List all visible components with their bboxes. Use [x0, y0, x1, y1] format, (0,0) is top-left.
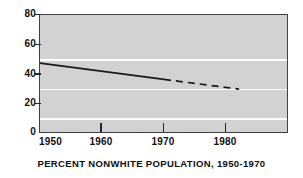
- y-tick-label-40: 40: [24, 69, 36, 79]
- chart-caption: PERCENT NONWHITE POPULATION, 1950-1970: [0, 158, 303, 169]
- x-tick-label-1980: 1980: [213, 136, 236, 147]
- x-tick-label-1960: 1960: [89, 136, 112, 147]
- x-tick-label-1950: 1950: [39, 136, 62, 147]
- y-tick-label-0: 0: [30, 127, 36, 137]
- y-axis: 80 60 40 20 0: [0, 0, 303, 178]
- y-tick-label-20: 20: [24, 98, 36, 108]
- chart-figure: 80 60 40 20 0 1950 1960 1970 1980 PERCEN…: [0, 0, 303, 178]
- x-tick-label-1970: 1970: [151, 136, 174, 147]
- y-tick-label-60: 60: [24, 39, 36, 49]
- y-tick-label-80: 80: [24, 9, 36, 19]
